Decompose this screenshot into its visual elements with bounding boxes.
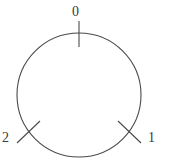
tick-label-1: 1 xyxy=(148,131,155,145)
tick-label-0: 0 xyxy=(72,5,79,19)
figure-background xyxy=(0,0,170,163)
circle-diagram-figure: 0 1 2 xyxy=(0,0,170,163)
circle-diagram-canvas xyxy=(0,0,170,163)
tick-label-2: 2 xyxy=(2,131,9,145)
